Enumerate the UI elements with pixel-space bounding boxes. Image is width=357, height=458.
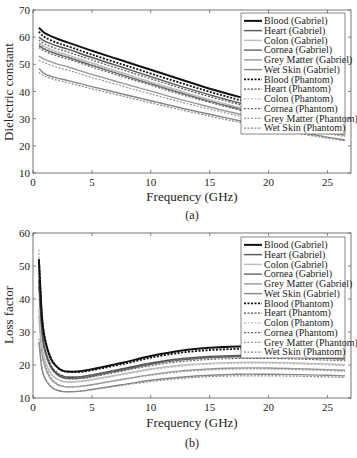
x-tick-label: 5	[89, 401, 95, 413]
x-tick-label: 0	[30, 401, 36, 413]
y-tick-label: 30	[19, 113, 31, 125]
panel-b-caption: (b)	[185, 436, 199, 450]
legend-entry: Wet Skin (Phantom)	[264, 346, 345, 358]
x-tick-label: 15	[204, 176, 216, 188]
panel-a-legend: Blood (Gabriel)Heart (Gabriel)Colon (Gab…	[241, 13, 357, 134]
x-tick-label: 0	[30, 176, 36, 188]
y-tick-label: 50	[19, 260, 31, 272]
panel-a-caption: (a)	[185, 208, 198, 222]
y-tick-label: 20	[19, 359, 31, 371]
x-tick-label: 10	[145, 176, 157, 188]
x-tick-label: 25	[322, 176, 334, 188]
y-tick-label: 40	[19, 293, 31, 305]
y-tick-label: 40	[19, 86, 31, 98]
x-tick-label: 25	[322, 401, 334, 413]
y-tick-label: 30	[19, 326, 31, 338]
x-tick-label: 5	[89, 176, 95, 188]
legend-entry: Wet Skin (Phantom)	[264, 122, 345, 134]
panel-a-dielectric-constant: 0510152025 10203040506070 Frequency (GHz…	[1, 4, 357, 222]
y-tick-label: 50	[19, 58, 31, 70]
y-tick-label: 60	[19, 227, 31, 239]
x-tick-label: 20	[263, 401, 275, 413]
panel-b-y-label: Loss factor	[1, 285, 16, 344]
x-tick-label: 15	[204, 401, 216, 413]
y-tick-label: 10	[19, 167, 31, 179]
panel-b-x-label: Frequency (GHz)	[146, 415, 237, 430]
y-tick-label: 60	[19, 31, 31, 43]
y-tick-label: 10	[19, 392, 31, 404]
x-tick-label: 10	[145, 401, 157, 413]
y-tick-label: 20	[19, 140, 31, 152]
panel-a-x-label: Frequency (GHz)	[146, 189, 237, 204]
x-tick-label: 20	[263, 176, 275, 188]
figure: 0510152025 10203040506070 Frequency (GHz…	[0, 0, 357, 458]
panel-a-y-label: Dielectric constant	[1, 43, 16, 141]
panel-b-legend: Blood (Gabriel)Heart (Gabriel)Colon (Gab…	[241, 237, 357, 358]
panel-b-loss-factor: 0510152025 102030405060 Frequency (GHz) …	[1, 227, 357, 450]
y-tick-label: 70	[19, 4, 31, 16]
